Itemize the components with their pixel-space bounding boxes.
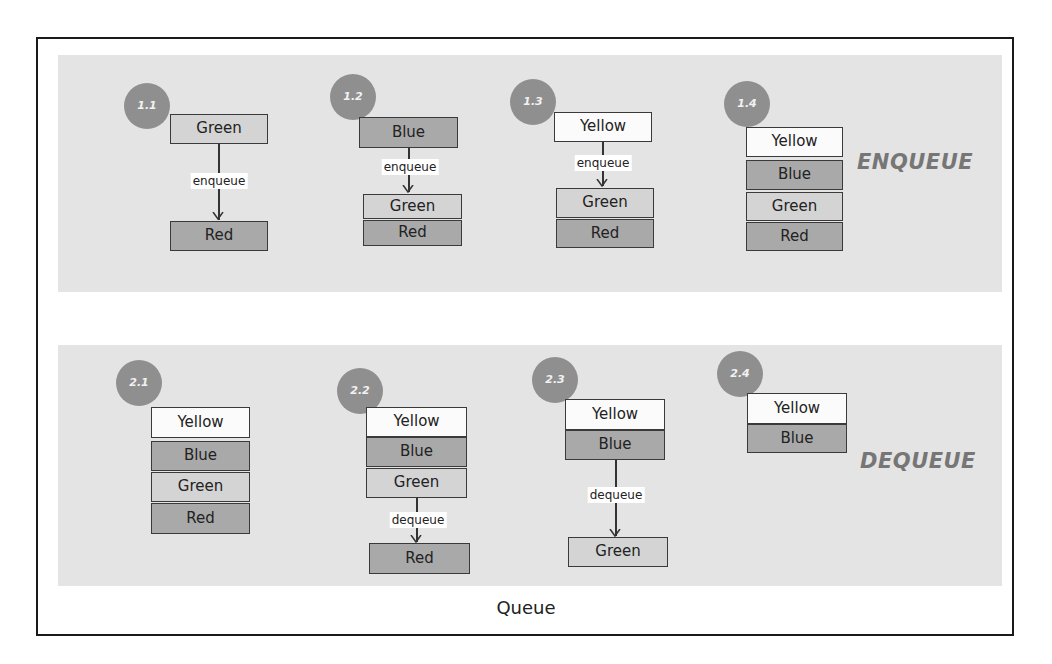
queue-item-blue: Blue: [366, 437, 467, 467]
step-badge-1-4: 1.4: [724, 81, 770, 127]
arrow-down-icon: [402, 185, 414, 193]
step-badge-2-3: 2.3: [532, 357, 578, 403]
queue-item-blue: Blue: [359, 117, 458, 148]
enqueue-label: enqueue: [191, 173, 248, 189]
queue-item-green: Green: [363, 194, 462, 219]
queue-item-yellow: Yellow: [554, 112, 652, 142]
queue-item-red: Red: [151, 503, 250, 534]
queue-item-blue: Blue: [565, 430, 665, 460]
enqueue-label: enqueue: [382, 159, 439, 175]
queue-item-red: Red: [746, 222, 843, 251]
enqueue-label: enqueue: [575, 155, 632, 171]
queue-item-green: Green: [746, 192, 843, 221]
queue-item-yellow: Yellow: [746, 127, 843, 157]
step-badge-1-2: 1.2: [330, 74, 376, 120]
queue-item-blue: Blue: [747, 424, 847, 453]
queue-item-blue: Blue: [746, 160, 843, 190]
queue-item-yellow: Yellow: [565, 399, 665, 430]
queue-item-green: Green: [568, 537, 668, 567]
queue-item-green: Green: [556, 188, 654, 218]
queue-item-yellow: Yellow: [366, 407, 467, 437]
dequeue-label: dequeue: [390, 512, 447, 528]
step-badge-1-1: 1.1: [124, 83, 170, 129]
dequeue-label: dequeue: [588, 487, 645, 503]
queue-item-red: Red: [170, 221, 268, 251]
queue-item-red: Red: [369, 543, 470, 574]
step-badge-1-3: 1.3: [510, 79, 556, 125]
queue-item-blue: Blue: [151, 441, 250, 471]
queue-item-yellow: Yellow: [747, 393, 847, 424]
queue-item-green: Green: [366, 468, 467, 498]
queue-item-green: Green: [151, 472, 250, 502]
step-badge-2-4: 2.4: [717, 351, 763, 397]
queue-item-yellow: Yellow: [151, 407, 250, 438]
enqueue-title: ENQUEUE: [857, 150, 973, 174]
figure-caption: Queue: [0, 597, 1052, 618]
dequeue-title: DEQUEUE: [860, 449, 976, 473]
step-badge-2-1: 2.1: [116, 360, 162, 406]
arrow-down-icon: [212, 212, 224, 220]
arrow-down-icon: [596, 179, 608, 187]
arrow-down-icon: [609, 529, 621, 537]
arrow-down-icon: [410, 535, 422, 543]
queue-item-red: Red: [363, 220, 462, 246]
queue-item-green: Green: [170, 114, 268, 144]
queue-item-red: Red: [556, 219, 654, 248]
